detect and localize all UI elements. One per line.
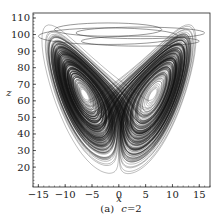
- x-tick-label: −15: [28, 189, 49, 200]
- figure-caption: (a) c=2: [100, 203, 141, 214]
- y-tick-label: 110: [11, 12, 30, 23]
- x-tick-label: −10: [55, 189, 76, 200]
- y-tick-label: 50: [17, 112, 30, 123]
- y-tick-label: 20: [17, 162, 30, 173]
- top-loop: [54, 23, 161, 36]
- trajectory-path: [42, 25, 196, 174]
- x-tick-label: −5: [85, 189, 100, 200]
- y-tick-label: 100: [11, 29, 30, 40]
- y-tick-label: 80: [17, 62, 30, 73]
- attractor-trajectory: [38, 23, 204, 174]
- y-axis-label: z: [5, 87, 12, 98]
- x-tick-label: 5: [142, 189, 148, 200]
- y-axis: 2030405060708090100110: [11, 12, 36, 183]
- chart-figure: −15−10−5051015 2030405060708090100110 x …: [0, 0, 221, 214]
- caption-prefix: (a): [100, 203, 114, 214]
- x-tick-label: 15: [193, 189, 206, 200]
- y-tick-label: 60: [17, 95, 30, 106]
- y-tick-label: 90: [17, 46, 30, 57]
- y-tick-label: 30: [17, 145, 30, 156]
- y-tick-label: 40: [17, 128, 30, 139]
- x-tick-label: 10: [166, 189, 179, 200]
- y-tick-label: 70: [17, 79, 30, 90]
- caption-eq: =2: [127, 203, 142, 214]
- plot-area: [33, 13, 210, 187]
